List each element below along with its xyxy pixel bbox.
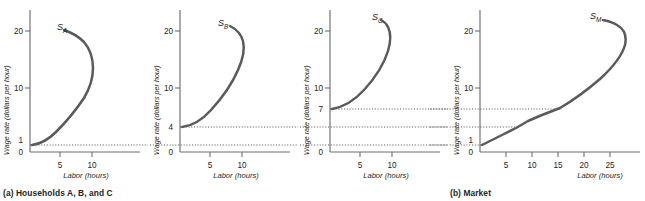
x-tick-label-10: 10: [527, 161, 537, 170]
x-tick-label-20: 20: [579, 161, 589, 170]
y-tick-label-0: 0: [18, 148, 23, 157]
y-axis-title: Wage rate (dollars per hour): [452, 65, 461, 155]
y-tick-label-10: 10: [14, 84, 24, 93]
supply-curve-market: [482, 20, 626, 145]
x-axis-title: Labor (hours): [577, 171, 623, 180]
y-tick-label-7: 7: [318, 105, 323, 114]
x-tick-label-10: 10: [87, 161, 97, 170]
x-axis-title: Labor (hours): [213, 171, 259, 180]
y-tick-label-1: 1: [18, 136, 23, 145]
y-tick-label-20: 20: [464, 27, 474, 36]
x-axis-title: Labor (hours): [363, 171, 409, 180]
panel-a-plot: Wage rate (dollars per hour) 20 10 1 0 5…: [0, 0, 148, 178]
y-tick-label-10: 10: [164, 84, 174, 93]
y-tick-label-20: 20: [164, 27, 174, 36]
caption-households: (a) Households A, B, and C: [3, 188, 113, 198]
supply-curve-c: [332, 20, 390, 109]
x-tick-label-25: 25: [605, 161, 615, 170]
panel-household-a: Wage rate (dollars per hour) 20 10 1 0 5…: [0, 0, 148, 178]
x-tick-label-10: 10: [387, 161, 397, 170]
y-tick-label-20: 20: [314, 27, 324, 36]
x-tick-label-5: 5: [504, 161, 509, 170]
x-tick-label-10: 10: [237, 161, 247, 170]
y-axis-title: Wage rate (dollars per hour): [302, 65, 311, 155]
supply-curve-a: [32, 30, 93, 145]
curve-label-b: SB: [218, 18, 229, 30]
panel-c-plot: Wage rate (dollars per hour) 20 10 7 0 5…: [300, 0, 448, 178]
panel-household-c: Wage rate (dollars per hour) 20 10 7 0 5…: [300, 0, 448, 178]
y-axis-title: Wage rate (dollars per hour): [2, 65, 11, 155]
panel-household-b: Wage rate (dollars per hour) 20 10 4 0 5…: [150, 0, 298, 178]
panel-market: Wage rate (dollars per hour) 20 10 1 0 5…: [450, 0, 645, 178]
caption-market: (b) Market: [450, 188, 491, 198]
x-tick-label-5: 5: [208, 161, 213, 170]
y-tick-label-10: 10: [464, 84, 474, 93]
y-tick-label-4: 4: [168, 123, 173, 132]
curve-label-a: SA: [57, 22, 67, 34]
x-axis-title: Labor (hours): [63, 171, 109, 180]
y-tick-label-10: 10: [314, 84, 324, 93]
panel-market-plot: Wage rate (dollars per hour) 20 10 1 0 5…: [450, 0, 645, 178]
panel-b-plot: Wage rate (dollars per hour) 20 10 4 0 5…: [150, 0, 298, 178]
curve-label-market: SM: [590, 11, 602, 23]
y-tick-label-20: 20: [14, 27, 24, 36]
y-tick-label-1: 1: [468, 136, 473, 145]
x-tick-label-5: 5: [58, 161, 63, 170]
y-axis-title: Wage rate (dollars per hour): [152, 65, 161, 155]
x-tick-label-15: 15: [553, 161, 563, 170]
labor-supply-figure: Wage rate (dollars per hour) 20 10 1 0 5…: [0, 0, 645, 201]
supply-curve-b: [182, 26, 244, 127]
y-tick-label-0: 0: [318, 148, 323, 157]
curve-label-c: SC: [372, 12, 383, 24]
y-tick-label-0: 0: [468, 148, 473, 157]
y-tick-label-0: 0: [168, 148, 173, 157]
x-tick-label-5: 5: [358, 161, 363, 170]
